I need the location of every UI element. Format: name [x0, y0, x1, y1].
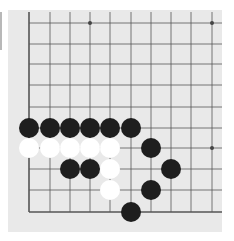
black-stone[interactable] — [121, 118, 141, 138]
white-stone[interactable] — [100, 138, 120, 158]
black-stone[interactable] — [121, 202, 141, 222]
white-stone[interactable] — [80, 138, 100, 158]
black-stone[interactable] — [60, 118, 80, 138]
white-stone[interactable] — [100, 159, 120, 179]
black-stone[interactable] — [60, 159, 80, 179]
star-point — [88, 21, 92, 25]
board-grid[interactable] — [0, 0, 234, 241]
black-stone[interactable] — [80, 159, 100, 179]
white-stone[interactable] — [100, 180, 120, 200]
black-stone[interactable] — [100, 118, 120, 138]
white-stone[interactable] — [19, 138, 39, 158]
star-point — [210, 146, 214, 150]
white-stone[interactable] — [40, 138, 60, 158]
white-stone[interactable] — [60, 138, 80, 158]
star-point — [210, 21, 214, 25]
black-stone[interactable] — [141, 138, 161, 158]
black-stone[interactable] — [141, 180, 161, 200]
black-stone[interactable] — [80, 118, 100, 138]
black-stone[interactable] — [40, 118, 60, 138]
black-stone[interactable] — [161, 159, 181, 179]
black-stone[interactable] — [19, 118, 39, 138]
